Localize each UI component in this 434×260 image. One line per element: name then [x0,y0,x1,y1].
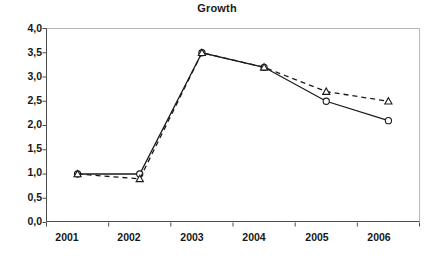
data-point-marker-triangle [323,88,330,94]
chart-screenshot: Growth 4,0 3,5 3,0 2,5 2,0 1,5 1,0 0,5 0… [0,0,434,260]
chart-canvas [0,0,434,260]
data-series-layer [74,49,392,182]
axis-tick-marks [43,29,420,227]
data-point-marker-circle [385,118,391,124]
series-line [78,53,389,174]
data-point-marker-circle [323,98,329,104]
series-line [78,53,389,179]
data-point-marker-triangle [385,98,392,104]
